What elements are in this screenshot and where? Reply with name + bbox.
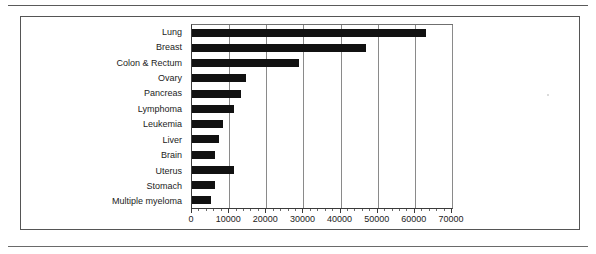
x-tick-label-50000: 50000	[364, 214, 389, 225]
x-tick-30000	[302, 209, 303, 213]
x-tick-20000	[265, 209, 266, 213]
x-tick-label-60000: 60000	[401, 214, 426, 225]
bar-uterus	[192, 166, 234, 174]
bar-lung	[192, 29, 426, 37]
bar-ovary	[192, 74, 246, 82]
x-minor-tick	[236, 209, 237, 211]
bar-row	[192, 25, 452, 40]
x-minor-tick	[429, 209, 430, 211]
bar-row	[192, 178, 452, 193]
bar-row	[192, 56, 452, 71]
x-tick-40000	[340, 209, 341, 213]
plot-area	[191, 24, 453, 209]
x-minor-tick	[347, 209, 348, 211]
x-tick-label-30000: 30000	[290, 214, 315, 225]
scan-speck	[547, 94, 549, 96]
x-tick-label-0: 0	[188, 214, 193, 225]
bar-multiple-myeloma	[192, 196, 211, 204]
x-tick-60000	[414, 209, 415, 213]
x-minor-tick	[421, 209, 422, 211]
bar-row	[192, 40, 452, 55]
x-minor-tick	[221, 209, 222, 211]
x-minor-tick	[406, 209, 407, 211]
bar-row	[192, 193, 452, 208]
x-minor-tick	[332, 209, 333, 211]
category-label-lung: Lung	[21, 24, 187, 39]
bar-row	[192, 86, 452, 101]
x-tick-label-20000: 20000	[253, 214, 278, 225]
figure-page: { "page": { "rule_top": "horizontal-rule…	[0, 0, 596, 254]
bar-liver	[192, 135, 219, 143]
category-label-lymphoma: Lymphoma	[21, 101, 187, 116]
x-minor-tick	[198, 209, 199, 211]
x-minor-tick	[317, 209, 318, 211]
x-tick-10000	[228, 209, 229, 213]
x-tick-label-10000: 10000	[216, 214, 241, 225]
x-minor-tick	[250, 209, 251, 211]
x-minor-tick	[288, 209, 289, 211]
bar-stomach	[192, 181, 215, 189]
x-minor-tick	[310, 209, 311, 211]
bar-series	[192, 25, 452, 208]
x-minor-tick	[362, 209, 363, 211]
category-label-breast: Breast	[21, 39, 187, 54]
x-minor-tick	[206, 209, 207, 211]
x-minor-tick	[258, 209, 259, 211]
bar-row	[192, 132, 452, 147]
bar-pancreas	[192, 90, 241, 98]
category-label-multiple-myeloma: Multiple myeloma	[21, 194, 187, 209]
category-label-uterus: Uterus	[21, 163, 187, 178]
x-tick-0	[191, 209, 192, 213]
category-axis-labels: LungBreastColon & RectumOvaryPancreasLym…	[21, 24, 187, 209]
x-minor-tick	[295, 209, 296, 211]
gridline-70000	[452, 25, 453, 208]
x-minor-tick	[436, 209, 437, 211]
x-minor-tick	[384, 209, 385, 211]
x-minor-tick	[354, 209, 355, 211]
x-tick-70000	[451, 209, 452, 213]
page-rule-top	[8, 5, 588, 6]
category-label-leukemia: Leukemia	[21, 117, 187, 132]
x-minor-tick	[213, 209, 214, 211]
category-label-colon-rectum: Colon & Rectum	[21, 55, 187, 70]
x-minor-tick	[280, 209, 281, 211]
bar-breast	[192, 44, 366, 52]
x-minor-tick	[392, 209, 393, 211]
x-tick-label-40000: 40000	[327, 214, 352, 225]
bar-row	[192, 162, 452, 177]
page-rule-bottom	[8, 246, 588, 247]
bar-chart: LungBreastColon & RectumOvaryPancreasLym…	[21, 17, 481, 231]
figure-frame: LungBreastColon & RectumOvaryPancreasLym…	[20, 16, 580, 230]
bar-row	[192, 147, 452, 162]
x-minor-tick	[399, 209, 400, 211]
x-minor-tick	[273, 209, 274, 211]
x-minor-tick	[444, 209, 445, 211]
bar-leukemia	[192, 120, 223, 128]
category-label-ovary: Ovary	[21, 70, 187, 85]
x-minor-tick	[325, 209, 326, 211]
bar-colon-rectum	[192, 59, 299, 67]
bar-row	[192, 71, 452, 86]
x-minor-tick	[369, 209, 370, 211]
category-label-liver: Liver	[21, 132, 187, 147]
category-label-stomach: Stomach	[21, 178, 187, 193]
bar-row	[192, 101, 452, 116]
bar-row	[192, 117, 452, 132]
x-axis: 010000200003000040000500006000070000	[191, 209, 453, 231]
x-minor-tick	[243, 209, 244, 211]
x-tick-label-70000: 70000	[438, 214, 463, 225]
category-label-pancreas: Pancreas	[21, 86, 187, 101]
bar-brain	[192, 151, 215, 159]
bar-lymphoma	[192, 105, 234, 113]
x-tick-50000	[377, 209, 378, 213]
category-label-brain: Brain	[21, 147, 187, 162]
